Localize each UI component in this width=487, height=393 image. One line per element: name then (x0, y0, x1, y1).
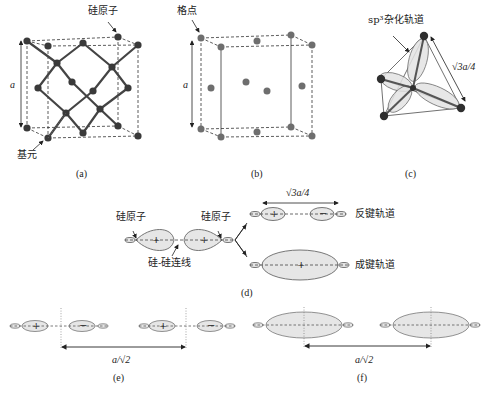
dim-label-b: a (183, 80, 188, 90)
sign-plus-e1: + (32, 321, 40, 331)
dim-label-c: √3a/4 (452, 62, 475, 72)
dim-label-f: a/√2 (355, 355, 373, 365)
dim-label-a: a (10, 80, 15, 90)
sign-plus-right: + (200, 235, 208, 245)
sign-plus-e2: + (159, 321, 167, 331)
sign-minus-antibonding: − (319, 209, 327, 219)
label-si-si-line: 硅-硅连线 (148, 258, 191, 268)
dim-label-d: √3a/4 (286, 188, 309, 198)
sign-plus-bonding: + (297, 260, 305, 270)
label-sp3-orbital: sp³杂化轨道 (368, 15, 424, 25)
label-lattice-point: 格点 (177, 6, 197, 16)
caption-c: (c) (405, 169, 416, 179)
sign-plus-antibonding: + (270, 209, 278, 219)
figure-canvas (0, 0, 487, 393)
caption-e: (e) (113, 373, 124, 383)
sign-plus-left: + (152, 235, 160, 245)
caption-b: (b) (251, 169, 263, 179)
panel-b-fcc-lattice (192, 20, 316, 141)
dim-label-e: a/√2 (112, 355, 130, 365)
caption-d: (d) (241, 288, 253, 298)
sign-minus-e2: − (207, 321, 215, 331)
caption-f: (f) (357, 373, 367, 383)
label-basis: 基元 (17, 150, 37, 160)
label-silicon-atom-a: 硅原子 (88, 6, 118, 16)
label-antibonding-orbital: 反键轨道 (355, 209, 395, 219)
panel-f-bonding-chain (253, 307, 480, 347)
label-silicon-atom-left: 硅原子 (116, 212, 146, 222)
label-bonding-orbital: 成键轨道 (355, 260, 395, 270)
caption-a: (a) (76, 169, 87, 179)
label-silicon-atom-right: 硅原子 (201, 212, 231, 222)
sign-minus-e1: − (79, 321, 87, 331)
panel-e-antibonding-chain (10, 308, 235, 348)
panel-a-diamond-lattice (21, 22, 142, 150)
panel-c-sp3-tetrahedron (377, 32, 465, 120)
